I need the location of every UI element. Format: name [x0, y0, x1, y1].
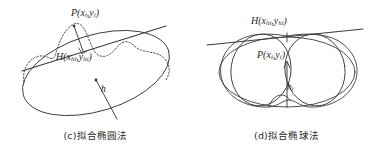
caption-panel-c: (c)拟合椭圆法 [0, 128, 191, 142]
label-height-h-c: h [101, 85, 106, 95]
label-point-h-d: H(xhi,yhi) [251, 16, 287, 27]
pp-to-h-segment [74, 26, 83, 51]
height-line-h [96, 80, 117, 119]
label-point-p-d: P(xi,yi) [257, 50, 285, 61]
tangent-line [22, 26, 166, 71]
panel-fitted-ellipse: P(xi,yi) H(xhi,yhi) h (c)拟合椭圆法 [0, 0, 191, 155]
caption-panel-d: (d)拟合椭球法 [191, 128, 382, 142]
label-point-h-c: H(xhi,yhi) [56, 52, 92, 63]
point-marker-p [73, 25, 76, 28]
panel-c-diagram [0, 0, 191, 130]
panel-fitted-ellipsoid: H(xhi,yhi) P(xi,yi) hi (d)拟合椭球法 [191, 0, 382, 155]
fitted-ellipse-curve [12, 14, 180, 130]
label-point-p-c: P(xi,yi) [71, 8, 99, 19]
tangent-line [207, 29, 363, 45]
figure-root: P(xi,yi) H(xhi,yhi) h (c)拟合椭圆法 [0, 0, 382, 155]
label-height-h-d: hi [287, 83, 294, 93]
